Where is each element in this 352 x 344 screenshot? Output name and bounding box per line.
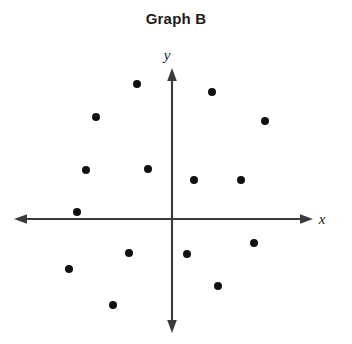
x-axis-label: x — [318, 211, 326, 227]
y-axis-top-arrowhead-icon — [167, 68, 177, 81]
data-point — [133, 80, 141, 88]
x-axis-left-arrowhead-icon — [14, 214, 27, 224]
data-point — [82, 166, 90, 174]
y-axis-label: y — [162, 47, 171, 63]
data-point — [65, 265, 73, 273]
data-point — [183, 250, 191, 258]
data-point — [109, 301, 117, 309]
data-point — [250, 239, 258, 247]
data-point — [92, 113, 100, 121]
data-point — [144, 165, 152, 173]
x-axis-right-arrowhead-icon — [300, 214, 313, 224]
data-point — [237, 176, 245, 184]
x-axis-group — [14, 214, 313, 224]
y-axis-bottom-arrowhead-icon — [167, 320, 177, 333]
data-point — [190, 176, 198, 184]
data-point — [208, 88, 216, 96]
graph-b-figure: Graph B x y — [0, 0, 352, 344]
data-points-layer — [65, 80, 269, 309]
data-point — [125, 249, 133, 257]
data-point — [73, 208, 81, 216]
scatter-plot-canvas: x y — [0, 0, 352, 344]
data-point — [261, 117, 269, 125]
y-axis-group — [167, 68, 177, 333]
data-point — [214, 282, 222, 290]
